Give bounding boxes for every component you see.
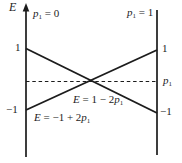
tick-value: −1 — [160, 105, 172, 117]
e-axis-label: E — [9, 1, 16, 13]
equation-descending-label: E = 1 − 2p1 — [73, 93, 123, 105]
equation-ascending-label: E = −1 + 2p1 — [34, 111, 90, 123]
tick-label-right-plus1: 1 — [162, 42, 168, 54]
e-variable: E — [73, 93, 80, 105]
energy-diagram-figure: E p1 = 0 p1 = 1 1 −1 1 −1 p1 E = 1 − 2p1… — [0, 0, 182, 163]
equals-value: = 1 — [136, 6, 153, 18]
tick-value: 1 — [15, 41, 21, 53]
e-axis-label-text: E — [9, 0, 16, 14]
equation-middle: = 1 − 2 — [80, 93, 114, 105]
tick-label-right-minus1: −1 — [160, 105, 172, 117]
tick-value: −1 — [6, 103, 18, 115]
p-subscript: 1 — [120, 99, 124, 107]
e-variable: E — [34, 111, 41, 123]
tick-label-left-minus1: −1 — [6, 103, 18, 115]
diagram-canvas — [0, 0, 182, 163]
p-subscript: 1 — [87, 117, 91, 125]
equals-value: = 0 — [42, 7, 59, 19]
tick-value: 1 — [162, 42, 168, 54]
tick-label-left-plus1: 1 — [15, 41, 21, 53]
p1-equals-0-label: p1 = 0 — [33, 7, 59, 19]
equation-middle: = −1 + 2 — [41, 111, 82, 123]
p-subscript: 1 — [169, 80, 173, 88]
e-axis-arrowhead-icon — [23, 3, 30, 12]
p1-equals-1-label: p1 = 1 — [127, 6, 153, 18]
dashed-line-p1-label: p1 — [163, 74, 172, 86]
